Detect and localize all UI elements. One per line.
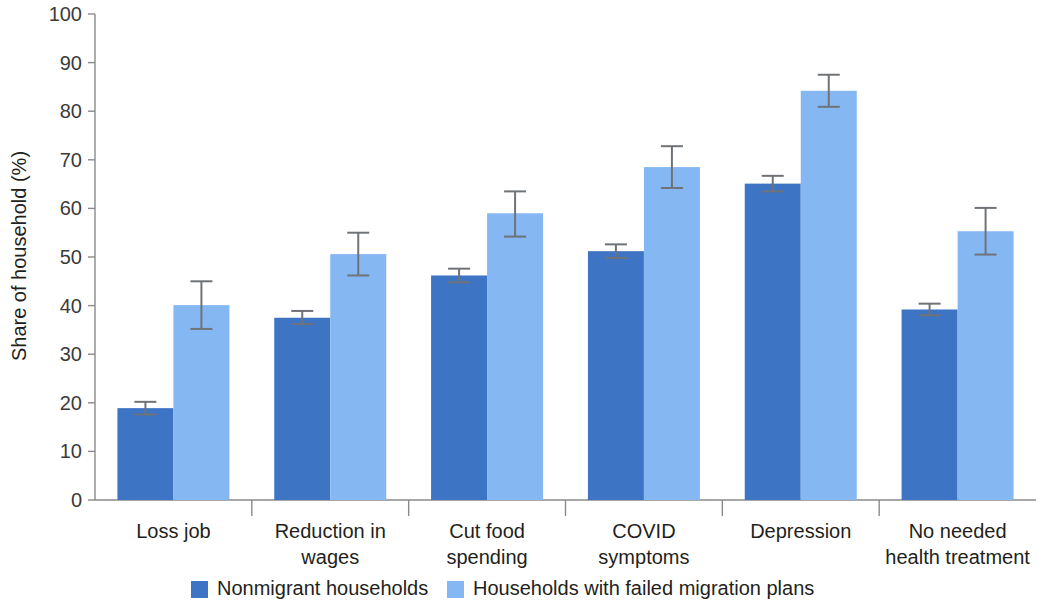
legend-label: Nonmigrant households xyxy=(217,577,428,599)
y-tick-label: 0 xyxy=(71,489,82,511)
bar xyxy=(958,231,1014,500)
bar xyxy=(274,318,330,500)
chart-canvas: 0102030405060708090100 Loss jobReduction… xyxy=(0,0,1044,613)
chart-legend: Nonmigrant householdsHouseholds with fai… xyxy=(191,577,814,599)
bar xyxy=(487,213,543,500)
y-tick-label: 90 xyxy=(60,52,82,74)
x-category-label: spending xyxy=(446,546,527,568)
bar xyxy=(745,184,801,500)
y-tick-label: 70 xyxy=(60,149,82,171)
bar-chart-figure: 0102030405060708090100 Loss jobReduction… xyxy=(0,0,1044,613)
error-bars-layer xyxy=(134,75,996,415)
bar xyxy=(173,305,229,500)
x-category-label: wages xyxy=(300,546,359,568)
x-axis-category-labels: Loss jobReduction inwagesCut foodspendin… xyxy=(136,520,1030,568)
bar xyxy=(330,254,386,500)
legend-swatch xyxy=(191,581,208,598)
y-axis-tick-labels: 0102030405060708090100 xyxy=(49,3,82,511)
y-tick-label: 20 xyxy=(60,392,82,414)
y-axis-title: Share of household (%) xyxy=(8,151,30,361)
bar xyxy=(902,309,958,500)
bar xyxy=(431,275,487,500)
x-category-label: health treatment xyxy=(885,546,1030,568)
y-tick-label: 80 xyxy=(60,100,82,122)
y-axis-tick-marks xyxy=(88,14,95,500)
y-tick-label: 30 xyxy=(60,343,82,365)
legend-swatch xyxy=(447,581,464,598)
bar xyxy=(588,251,644,500)
x-category-label: symptoms xyxy=(598,546,689,568)
y-tick-label: 40 xyxy=(60,295,82,317)
bars-layer xyxy=(117,91,1013,500)
legend-label: Households with failed migration plans xyxy=(473,577,814,599)
y-tick-label: 10 xyxy=(60,440,82,462)
y-tick-label: 60 xyxy=(60,197,82,219)
x-category-label: COVID xyxy=(612,520,675,542)
x-category-label: Loss job xyxy=(136,520,211,542)
x-category-label: No needed xyxy=(909,520,1007,542)
bar xyxy=(117,408,173,500)
x-category-label: Reduction in xyxy=(275,520,386,542)
x-category-label: Depression xyxy=(750,520,851,542)
bar xyxy=(801,91,857,500)
y-tick-label: 50 xyxy=(60,246,82,268)
x-axis-group-separators xyxy=(252,500,879,516)
bar xyxy=(644,167,700,500)
y-tick-label: 100 xyxy=(49,3,82,25)
x-category-label: Cut food xyxy=(449,520,525,542)
